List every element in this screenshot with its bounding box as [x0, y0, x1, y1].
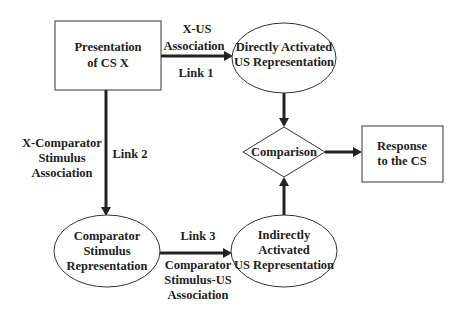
edge-link3	[160, 248, 232, 258]
edge-indirect-to-comparison	[279, 177, 289, 216]
edge-label-line: X-Comparator	[22, 136, 102, 150]
link-name: Link 1	[178, 66, 213, 80]
edge-label-link2: X-Comparator Stimulus Association Link 2	[22, 136, 147, 180]
node-presentation-of-cs-x: Presentation of CS X	[55, 21, 161, 90]
node-label-line: Representation	[66, 259, 147, 273]
node-response-to-the-cs: Response to the CS	[362, 126, 443, 182]
edge-comparison-to-response	[325, 147, 362, 157]
arrowhead-icon	[279, 118, 289, 127]
node-label-line: Comparison	[251, 145, 317, 159]
edge-label-line: Association	[31, 166, 92, 180]
node-label-line: US Representation	[234, 55, 334, 69]
node-label-line: Response	[377, 139, 427, 153]
node-label-line: Directly Activated	[236, 40, 333, 54]
node-label-line: Comparator	[74, 229, 141, 243]
node-directly-activated-us: Directly Activated US Representation	[232, 23, 336, 93]
node-label-line: Indirectly	[258, 228, 311, 242]
edge-link2	[101, 90, 111, 216]
node-label-line: Stimulus	[83, 244, 130, 258]
edge-label-line: Comparator	[165, 258, 232, 272]
node-label-line: US Representation	[234, 258, 334, 272]
edge-label-line: Association	[167, 288, 228, 302]
node-indirectly-activated-us: Indirectly Activated US Representation	[231, 215, 337, 287]
comparator-hypothesis-diagram: Presentation of CS X Directly Activated …	[0, 0, 464, 313]
edge-label-line: Association	[163, 39, 224, 53]
arrowhead-icon	[353, 147, 362, 157]
node-label-line: Activated	[258, 243, 309, 257]
node-comparison: Comparison	[243, 127, 325, 177]
edge-label-link1: X-US Association Link 1	[163, 22, 224, 80]
edge-label-link3: Link 3 Comparator Stimulus-US Associatio…	[164, 229, 231, 302]
edge-label-line: Stimulus-US	[164, 273, 231, 287]
node-label-line: of CS X	[87, 56, 129, 70]
edge-label-line: Stimulus	[38, 151, 85, 165]
link-name: Link 2	[112, 147, 147, 161]
node-label-line: to the CS	[377, 154, 426, 168]
arrowhead-icon	[279, 177, 289, 186]
edge-direct-to-comparison	[279, 93, 289, 127]
edge-label-line: X-US	[182, 22, 211, 36]
node-comparator-stimulus-representation: Comparator Stimulus Representation	[54, 215, 160, 287]
node-label-line: Presentation	[74, 40, 141, 54]
link-name: Link 3	[180, 229, 215, 243]
